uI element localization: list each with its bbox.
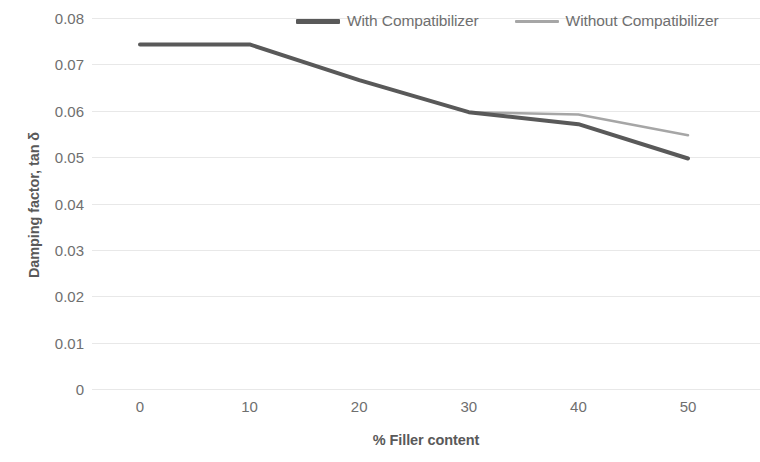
x-axis-tick-label: 40 [548, 398, 608, 415]
y-axis-tick-label: 0.08 [18, 10, 84, 27]
x-axis-tick-labels: 01020304050 [92, 398, 760, 422]
x-axis-tick-label: 50 [658, 398, 718, 415]
y-axis-tick-label: 0 [18, 381, 84, 398]
y-axis-tick-label: 0.04 [18, 195, 84, 212]
y-axis-tick-label: 0.05 [18, 149, 84, 166]
y-axis-tick-label: 0.03 [18, 241, 84, 258]
legend-label-with-compatibilizer: With Compatibilizer [347, 12, 479, 30]
legend-item-without-compatibilizer[interactable]: Without Compatibilizer [515, 12, 719, 30]
damping-factor-line-chart: With Compatibilizer Without Compatibiliz… [0, 0, 760, 462]
series-line-with-compatibilizer [140, 44, 688, 158]
series-lines [92, 18, 760, 389]
y-axis-tick-label: 0.07 [18, 56, 84, 73]
legend-item-with-compatibilizer[interactable]: With Compatibilizer [296, 12, 479, 30]
x-axis-tick-label: 20 [329, 398, 389, 415]
x-axis-tick-label: 0 [110, 398, 170, 415]
legend-line-swatch-with-compatibilizer [296, 19, 340, 24]
x-axis-title: % Filler content [92, 432, 760, 448]
legend-line-swatch-without-compatibilizer [515, 20, 559, 23]
plot-area [92, 18, 760, 389]
series-line-without-compatibilizer [140, 44, 688, 135]
gridline [92, 389, 760, 390]
y-axis-tick-label: 0.02 [18, 288, 84, 305]
legend-label-without-compatibilizer: Without Compatibilizer [566, 12, 719, 30]
x-axis-tick-label: 30 [439, 398, 499, 415]
y-axis-tick-label: 0.01 [18, 334, 84, 351]
x-axis-tick-label: 10 [220, 398, 280, 415]
y-axis-tick-labels: 00.010.020.030.040.050.060.070.08 [18, 0, 84, 462]
chart-legend: With Compatibilizer Without Compatibiliz… [296, 12, 718, 30]
y-axis-tick-label: 0.06 [18, 102, 84, 119]
